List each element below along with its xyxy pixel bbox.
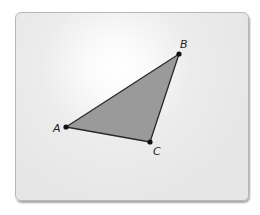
vertex-a-label: A — [52, 122, 61, 135]
triangle-diagram: A B C — [0, 0, 260, 215]
vertex-a-point — [63, 124, 68, 129]
triangle-abc — [66, 54, 179, 142]
vertex-b-point — [176, 51, 181, 56]
vertex-c-label: C — [153, 145, 161, 158]
vertex-b-label: B — [180, 38, 188, 51]
vertex-c-point — [147, 139, 152, 144]
